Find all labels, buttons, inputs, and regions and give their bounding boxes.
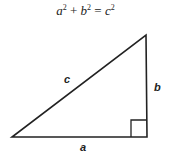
leg-label-b: b	[154, 81, 161, 93]
right-angle-marker	[131, 120, 147, 137]
right-triangle	[12, 35, 147, 137]
hypotenuse-label-c: c	[64, 73, 70, 85]
right-triangle-diagram	[0, 0, 171, 160]
leg-label-a: a	[80, 141, 86, 153]
